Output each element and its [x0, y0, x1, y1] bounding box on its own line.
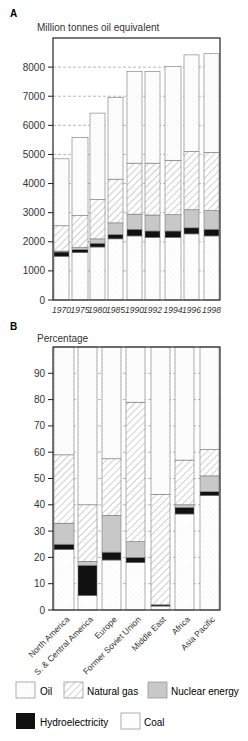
segment-oil [175, 347, 194, 460]
segment-oil [200, 347, 219, 450]
legend-item-coal: Coal [121, 713, 165, 729]
y-tick-label: 8000 [23, 62, 46, 73]
chart-b-plot: 0102030405060708090North AmericaS. & Cen… [26, 347, 220, 677]
oil-swatch-icon [16, 682, 35, 698]
segment-hydroelectricity [204, 229, 219, 236]
y-tick-label: 40 [34, 499, 46, 510]
segment-hydroelectricity [72, 250, 88, 253]
segment-natural-gas [72, 216, 88, 248]
segment-natural-gas [127, 163, 142, 214]
segment-natural-gas [102, 459, 121, 516]
segment-oil [151, 347, 170, 494]
segment-coal [184, 234, 199, 300]
legend-label-oil: Oil [40, 686, 52, 697]
segment-oil [145, 71, 160, 163]
segment-hydroelectricity [108, 235, 123, 239]
legend-item-hydro: Hydroelectricity [16, 713, 108, 729]
segment-oil [54, 159, 69, 226]
bar-s-central-america [78, 347, 97, 610]
y-tick-label: 70 [34, 420, 46, 431]
y-tick-label: 2000 [23, 236, 46, 247]
energy-figure: A Million tonnes oil equivalent 01000200… [0, 0, 248, 741]
segment-oil [108, 98, 123, 180]
segment-oil [90, 113, 105, 199]
segment-oil [102, 347, 121, 459]
bar-1990 [127, 71, 142, 300]
x-tick-label: 1998 [202, 305, 221, 315]
segment-coal [54, 550, 74, 610]
bar-1994 [165, 67, 181, 300]
segment-oil [72, 138, 88, 216]
bar-1980 [90, 113, 105, 300]
legend-label-coal: Coal [144, 717, 165, 728]
bar-1985 [108, 98, 123, 300]
segment-coal [90, 247, 105, 300]
panel-a-y-label: Million tonnes oil equivalent [37, 22, 160, 33]
segment-natural-gas [204, 152, 219, 210]
legend-label-natural-gas: Natural gas [87, 686, 138, 697]
bar-1992 [145, 71, 160, 300]
chart-a-plot: 0100020003000400050006000700080001970197… [23, 38, 221, 315]
bar-1975 [72, 138, 88, 300]
segment-coal [165, 237, 181, 300]
segment-oil [165, 67, 181, 161]
natural-gas-swatch-icon [64, 682, 83, 698]
segment-natural-gas [54, 455, 74, 523]
segment-coal [102, 560, 121, 610]
segment-coal [126, 563, 145, 610]
legend-label-nuclear: Nuclear energy [171, 686, 239, 697]
panel-a: A Million tonnes oil equivalent 01000200… [10, 8, 221, 315]
bar-1970 [54, 159, 69, 300]
segment-nuclear-energy [200, 476, 219, 492]
segment-natural-gas [145, 163, 160, 215]
x-tick-label: 1985 [106, 305, 125, 315]
segment-coal [78, 596, 97, 610]
segment-natural-gas [78, 505, 97, 562]
x-tick-label: 1990 [125, 305, 144, 315]
segment-nuclear-energy [127, 214, 142, 229]
segment-natural-gas [184, 152, 199, 210]
segment-coal [72, 253, 88, 300]
y-tick-label: 7000 [23, 91, 46, 102]
bar-europe [102, 347, 121, 610]
legend: Oil Natural gas Nuclear energy Hydroelec… [16, 682, 239, 729]
segment-hydroelectricity [145, 231, 160, 237]
segment-nuclear-energy [90, 239, 105, 243]
segment-hydroelectricity [54, 252, 69, 256]
bar-1998 [204, 54, 219, 300]
segment-natural-gas [200, 450, 219, 476]
panel-a-letter: A [10, 8, 17, 19]
segment-coal [54, 256, 69, 300]
segment-coal [108, 239, 123, 300]
y-tick-label: 4000 [23, 178, 46, 189]
segment-coal [145, 237, 160, 300]
segment-hydroelectricity [184, 228, 199, 234]
segment-hydroelectricity [175, 507, 194, 514]
x-tick-label: Africa [169, 614, 192, 637]
y-tick-label: 20 [34, 552, 46, 563]
segment-hydroelectricity [78, 565, 97, 595]
segment-natural-gas [126, 402, 145, 541]
segment-oil [127, 71, 142, 163]
segment-nuclear-energy [204, 211, 219, 230]
nuclear-swatch-icon [148, 682, 167, 698]
y-tick-label: 90 [34, 368, 46, 379]
segment-natural-gas [90, 200, 105, 239]
bar-north-america [54, 347, 74, 610]
y-tick-label: 6000 [23, 120, 46, 131]
segment-oil [204, 54, 219, 153]
y-tick-label: 30 [34, 526, 46, 537]
y-tick-label: 1000 [23, 265, 46, 276]
y-tick-label: 50 [34, 473, 46, 484]
panel-b: B Percentage 0102030405060708090North Am… [10, 321, 220, 677]
segment-nuclear-energy [165, 215, 181, 231]
x-tick-label: 1975 [71, 305, 90, 315]
segment-nuclear-energy [54, 523, 74, 544]
segment-nuclear-energy [184, 210, 199, 228]
segment-coal [200, 496, 219, 610]
bar-middle-east [151, 347, 170, 610]
legend-item-oil: Oil [16, 682, 52, 698]
legend-item-nuclear: Nuclear energy [148, 682, 239, 698]
y-tick-label: 80 [34, 394, 46, 405]
segment-hydroelectricity [165, 231, 181, 237]
